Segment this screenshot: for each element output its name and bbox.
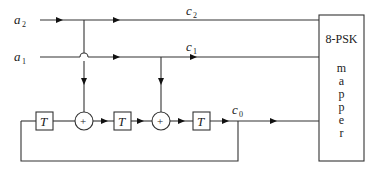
mapper-letter: p (339, 100, 345, 114)
arrow-icon (222, 118, 229, 124)
svg-text:c: c (186, 3, 192, 18)
arrow-icon (113, 17, 120, 23)
mapper-letter: r (340, 126, 344, 140)
arrow-icon (81, 78, 87, 85)
encoder-diagram: a 2 a 1 c 2 c 1 T + T + T (0, 0, 382, 171)
arrow-icon (270, 118, 277, 124)
mapper-letter: e (339, 113, 344, 127)
svg-text:2: 2 (193, 11, 197, 20)
arrow-icon (101, 118, 108, 124)
arrow-icon (158, 78, 164, 85)
crossover-hop (80, 53, 88, 57)
input-a2-label: a 2 (14, 12, 26, 29)
output-c0-label: c 0 (232, 102, 243, 119)
arrow-icon (137, 118, 144, 124)
adder1-label: + (80, 115, 86, 127)
input-a1-label: a 1 (14, 49, 26, 66)
delay-T1-label: T (40, 114, 48, 129)
mapper-title: 8-PSK (325, 32, 357, 46)
output-c1-label: c 1 (186, 39, 197, 56)
svg-text:2: 2 (22, 20, 26, 29)
delay-T2-label: T (118, 114, 126, 129)
svg-text:a: a (14, 12, 21, 27)
mapper-letter: a (339, 74, 345, 88)
arrow-icon (113, 54, 120, 60)
arrow-icon (178, 118, 185, 124)
mapper-letter: m (337, 61, 347, 75)
arrow-icon (56, 17, 63, 23)
svg-text:0: 0 (239, 110, 243, 119)
adder2-label: + (157, 115, 163, 127)
svg-text:c: c (186, 39, 192, 54)
svg-text:1: 1 (193, 47, 197, 56)
svg-text:1: 1 (22, 57, 26, 66)
svg-text:a: a (14, 49, 21, 64)
delay-T3-label: T (197, 114, 205, 129)
svg-text:c: c (232, 102, 238, 117)
output-c2-label: c 2 (186, 3, 197, 20)
mapper-letter: p (339, 87, 345, 101)
